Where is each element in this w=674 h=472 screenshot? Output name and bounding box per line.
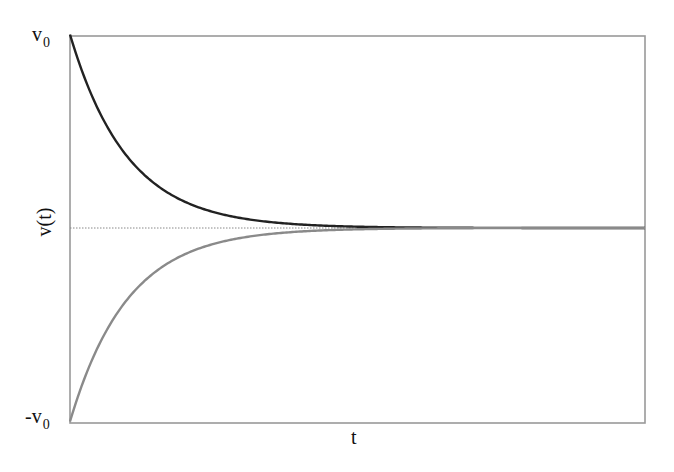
y-tick-label-top: v0 bbox=[32, 24, 50, 50]
y-tick-label-bottom: -v0 bbox=[25, 406, 50, 432]
y-tick-top-subscript: 0 bbox=[43, 35, 50, 50]
decay-curve-positive bbox=[70, 35, 645, 228]
y-axis-label: v(t) bbox=[34, 208, 54, 237]
y-tick-top-base: v bbox=[32, 23, 42, 45]
chart-plot bbox=[0, 0, 674, 472]
y-tick-bottom-subscript: 0 bbox=[43, 417, 50, 432]
decay-curve-negative bbox=[70, 228, 645, 421]
x-axis-label: t bbox=[351, 427, 357, 447]
y-tick-bottom-base: -v bbox=[25, 405, 42, 427]
